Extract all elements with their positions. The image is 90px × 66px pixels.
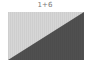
tile-label: 1+6 (0, 0, 90, 11)
split-color-thumbnail[interactable] (8, 12, 84, 60)
diagonal-split-swatch-icon (8, 12, 84, 60)
